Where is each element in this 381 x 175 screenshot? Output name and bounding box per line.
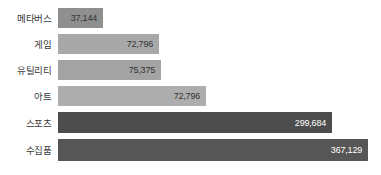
- bar-track: 299,684: [58, 112, 381, 133]
- bar-track: 367,129: [58, 139, 381, 161]
- bar-5[interactable]: 299,684: [58, 112, 332, 133]
- bar-row: 스포츠299,684: [0, 112, 381, 133]
- bar-6[interactable]: 367,129: [58, 139, 368, 161]
- bar-value-label-6: 367,129: [331, 145, 362, 155]
- category-label-6: 수집품: [0, 143, 58, 157]
- bar-row: 아트72,796: [0, 86, 381, 106]
- bar-3[interactable]: 75,375: [58, 60, 161, 80]
- bar-row: 수집품367,129: [0, 139, 381, 161]
- bar-track: 72,796: [58, 86, 381, 106]
- bar-track: 72,796: [58, 34, 381, 54]
- bar-row: 유틸리티75,375: [0, 60, 381, 80]
- bar-value-label-3: 75,375: [129, 65, 155, 75]
- horizontal-bar-chart: 메타버스37,144게임72,796유틸리티75,375아트72,796스포츠2…: [0, 0, 381, 175]
- bar-row: 메타버스37,144: [0, 8, 381, 28]
- bar-value-label-5: 299,684: [295, 118, 326, 128]
- category-label-3: 유틸리티: [0, 63, 58, 77]
- bar-4[interactable]: 72,796: [58, 86, 206, 106]
- category-label-4: 아트: [0, 89, 58, 103]
- bar-row: 게임72,796: [0, 34, 381, 54]
- category-label-2: 게임: [0, 37, 58, 51]
- bar-value-label-2: 72,796: [127, 39, 153, 49]
- bar-1[interactable]: 37,144: [58, 8, 103, 28]
- bar-track: 37,144: [58, 8, 381, 28]
- category-label-1: 메타버스: [0, 11, 58, 25]
- category-label-5: 스포츠: [0, 116, 58, 130]
- bar-value-label-1: 37,144: [71, 13, 97, 23]
- bar-value-label-4: 72,796: [174, 91, 200, 101]
- bar-track: 75,375: [58, 60, 381, 80]
- bar-2[interactable]: 72,796: [58, 34, 159, 54]
